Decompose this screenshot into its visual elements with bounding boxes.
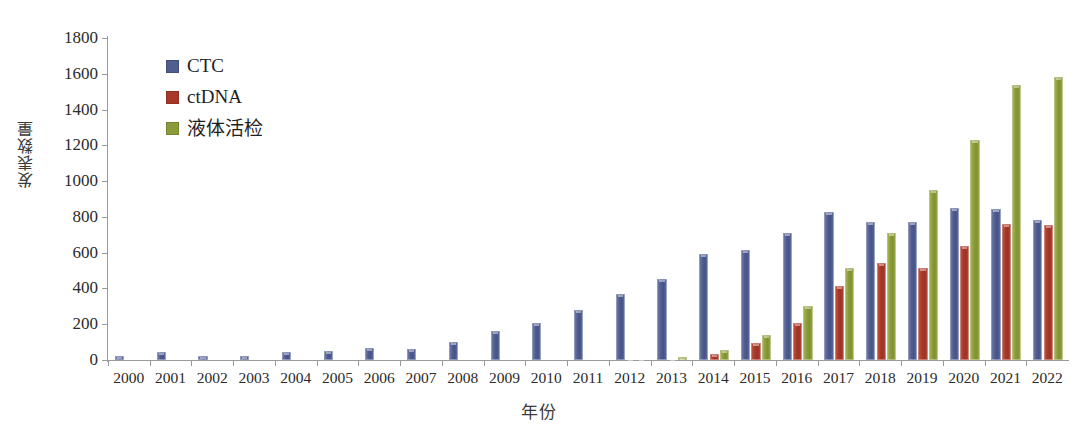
x-tick-mark	[567, 360, 568, 366]
y-tick-label: 800	[42, 208, 98, 225]
x-tick-mark	[985, 360, 986, 366]
bar-ctDNA-2018	[877, 263, 886, 360]
chart-legend: CTCctDNA液体活检	[166, 56, 263, 138]
bar-液体活检-2018	[887, 233, 896, 360]
bar-CTC-2004	[282, 352, 291, 360]
bar-CTC-2000	[115, 356, 124, 360]
bar-CTC-2018	[866, 222, 875, 360]
y-tick-label: 0	[42, 351, 98, 368]
x-tick-mark	[233, 360, 234, 366]
x-tick-mark	[525, 360, 526, 366]
bar-液体活检-2020	[970, 140, 979, 360]
bar-液体活检-2013	[678, 357, 687, 360]
x-tick-mark	[442, 360, 443, 366]
bar-CTC-2005	[324, 351, 333, 360]
bar-ctDNA-2021	[1002, 224, 1011, 360]
x-tick-mark	[776, 360, 777, 366]
legend-label: ctDNA	[187, 87, 242, 107]
x-tick-mark	[108, 360, 109, 366]
x-tick-mark	[317, 360, 318, 366]
y-tick-label: 200	[42, 315, 98, 332]
x-tick-mark	[191, 360, 192, 366]
x-tick-mark	[901, 360, 902, 366]
bar-CTC-2021	[991, 209, 1000, 360]
bar-CTC-2010	[532, 323, 541, 360]
x-tick-mark	[400, 360, 401, 366]
bar-CTC-2002	[198, 356, 207, 360]
y-tick-label: 1200	[42, 136, 98, 153]
bar-液体活检-2022	[1054, 77, 1063, 360]
legend-swatch-icon	[166, 60, 179, 73]
y-tick-label: 1400	[42, 101, 98, 118]
bar-ctDNA-2022	[1044, 225, 1053, 360]
legend-item-ctDNA[interactable]: ctDNA	[166, 87, 263, 107]
bar-ctDNA-2015	[751, 343, 760, 360]
y-tick-label: 1600	[42, 65, 98, 82]
x-tick-mark	[609, 360, 610, 366]
bar-ctDNA-2020	[960, 246, 969, 360]
bar-CTC-2003	[240, 356, 249, 360]
y-tick-label: 600	[42, 244, 98, 261]
bar-CTC-2019	[908, 222, 917, 360]
bar-液体活检-2014	[720, 350, 729, 360]
legend-label: CTC	[187, 56, 224, 76]
bar-CTC-2013	[657, 279, 666, 360]
bar-ctDNA-2017	[835, 286, 844, 360]
y-tick-label: 400	[42, 279, 98, 296]
legend-item-液体活检[interactable]: 液体活检	[166, 118, 263, 138]
bar-CTC-2006	[365, 348, 374, 360]
bar-ctDNA-2012	[626, 358, 635, 360]
bar-CTC-2011	[574, 310, 583, 360]
x-tick-mark	[943, 360, 944, 366]
x-tick-mark	[859, 360, 860, 366]
bar-chart: 发表数量 180016001400120010008006004002000 2…	[0, 0, 1078, 435]
y-tick-label: 1800	[42, 29, 98, 46]
x-tick-mark	[484, 360, 485, 366]
x-tick-mark	[358, 360, 359, 366]
bar-CTC-2016	[783, 233, 792, 360]
bar-ctDNA-2014	[710, 354, 719, 360]
x-axis-title: 年份	[0, 398, 1078, 423]
bar-液体活检-2012	[637, 358, 646, 360]
x-tick-mark	[818, 360, 819, 366]
bar-CTC-2020	[950, 208, 959, 360]
legend-swatch-icon	[166, 91, 179, 104]
bar-ctDNA-2016	[793, 323, 802, 360]
bar-液体活检-2015	[762, 335, 771, 360]
bar-液体活检-2021	[1012, 85, 1021, 360]
bar-液体活检-2017	[845, 268, 854, 360]
x-axis-line	[107, 360, 1069, 361]
legend-label: 液体活检	[187, 118, 263, 138]
bar-ctDNA-2019	[918, 268, 927, 360]
x-tick-mark	[734, 360, 735, 366]
bar-CTC-2007	[407, 349, 416, 360]
bar-CTC-2012	[616, 294, 625, 360]
x-tick-label: 2022	[1017, 369, 1077, 386]
bar-CTC-2008	[449, 342, 458, 360]
legend-swatch-icon	[166, 122, 179, 135]
legend-item-CTC[interactable]: CTC	[166, 56, 263, 76]
bar-CTC-2009	[491, 331, 500, 360]
x-tick-mark	[651, 360, 652, 366]
x-tick-mark	[275, 360, 276, 366]
bar-CTC-2017	[824, 212, 833, 360]
x-tick-mark	[1026, 360, 1027, 366]
bar-液体活检-2016	[803, 306, 812, 360]
x-tick-mark	[150, 360, 151, 366]
bar-ctDNA-2013	[668, 358, 677, 360]
bar-CTC-2001	[157, 352, 166, 360]
x-tick-mark	[692, 360, 693, 366]
bar-CTC-2014	[699, 254, 708, 360]
bar-CTC-2022	[1033, 220, 1042, 360]
y-tick-label: 1000	[42, 172, 98, 189]
bar-CTC-2015	[741, 250, 750, 360]
bar-液体活检-2019	[929, 190, 938, 360]
